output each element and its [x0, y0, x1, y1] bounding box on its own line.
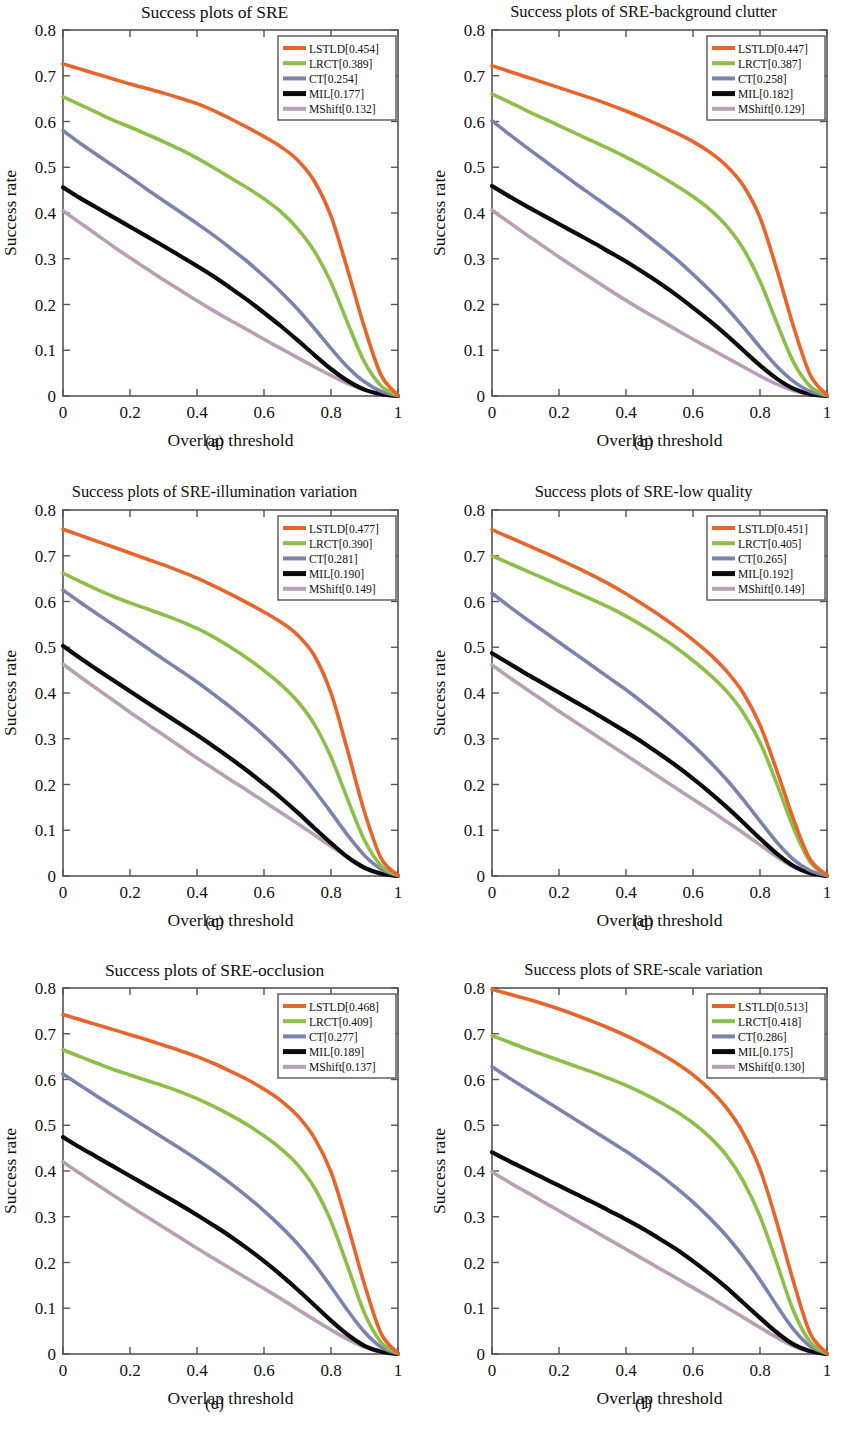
y-tick-label: 0.2 [35, 1254, 56, 1273]
legend-label-lrct: LRCT[0.409] [309, 1016, 372, 1029]
legend-label-lrct: LRCT[0.418] [738, 1016, 801, 1029]
y-tick-label: 0.1 [464, 341, 485, 360]
y-tick-label: 0.8 [35, 501, 56, 520]
sub-caption-e: (e) [0, 1394, 429, 1414]
y-tick-label: 0 [477, 387, 486, 406]
x-tick-label: 1 [394, 403, 403, 422]
legend-label-lstld: LSTLD[0.454] [309, 43, 379, 56]
y-tick-label: 0.6 [464, 1071, 485, 1090]
legend-label-mshift: MShift[0.129] [738, 103, 805, 116]
x-tick-label: 0 [59, 883, 68, 902]
y-tick-label: 0.6 [35, 113, 56, 132]
x-tick-label: 0.2 [119, 1361, 140, 1380]
y-tick-label: 0.7 [464, 1025, 486, 1044]
x-tick-label: 0 [488, 403, 497, 422]
legend: LSTLD[0.454]LRCT[0.389]CT[0.254]MIL[0.17… [278, 36, 396, 120]
x-tick-label: 0.8 [320, 1361, 341, 1380]
y-tick-label: 0.4 [35, 684, 57, 703]
x-tick-label: 0.2 [548, 883, 569, 902]
legend-label-mil: MIL[0.192] [738, 568, 793, 581]
legend: LSTLD[0.477]LRCT[0.390]CT[0.281]MIL[0.19… [278, 516, 396, 600]
legend: LSTLD[0.468]LRCT[0.409]CT[0.277]MIL[0.18… [278, 994, 396, 1078]
legend-label-lstld: LSTLD[0.451] [738, 523, 808, 536]
x-tick-label: 1 [394, 883, 403, 902]
y-tick-label: 0.2 [464, 296, 485, 315]
plot-panel-b: Success plots of SRE-background clutter0… [429, 0, 858, 480]
y-tick-label: 0.5 [35, 638, 56, 657]
y-tick-label: 0.3 [464, 1208, 485, 1227]
legend-label-ct: CT[0.254] [309, 73, 358, 86]
y-axis-label: Success rate [0, 1128, 20, 1214]
x-tick-label: 1 [823, 403, 832, 422]
y-tick-label: 0.7 [464, 67, 486, 86]
x-tick-label: 0.6 [682, 1361, 703, 1380]
x-tick-label: 0.2 [548, 1361, 569, 1380]
legend: LSTLD[0.451]LRCT[0.405]CT[0.265]MIL[0.19… [707, 516, 825, 600]
plot-canvas-d: 00.20.40.60.8100.10.20.30.40.50.60.70.8O… [429, 480, 858, 944]
plot-canvas-e: 00.20.40.60.8100.10.20.30.40.50.60.70.8O… [0, 958, 429, 1422]
legend-label-mil: MIL[0.189] [309, 1046, 364, 1059]
plot-panel-f: Success plots of SRE-scale variation00.2… [429, 958, 858, 1446]
y-tick-label: 0.2 [35, 776, 56, 795]
legend-label-lrct: LRCT[0.390] [309, 538, 372, 551]
y-tick-label: 0.3 [35, 1208, 56, 1227]
x-tick-label: 0.6 [682, 403, 703, 422]
x-tick-label: 0.4 [615, 1361, 637, 1380]
y-tick-label: 0.7 [35, 67, 57, 86]
sub-caption-c: (c) [0, 912, 429, 932]
x-tick-label: 0.8 [320, 883, 341, 902]
x-tick-label: 0.6 [253, 883, 274, 902]
figure-grid: Success plots of SRE00.20.40.60.8100.10.… [0, 0, 858, 1446]
y-tick-label: 0.7 [35, 547, 57, 566]
y-tick-label: 0.8 [464, 501, 485, 520]
legend-label-lstld: LSTLD[0.513] [738, 1001, 808, 1014]
x-tick-label: 1 [823, 1361, 832, 1380]
legend-label-mil: MIL[0.182] [738, 88, 793, 101]
plot-canvas-a: 00.20.40.60.8100.10.20.30.40.50.60.70.8O… [0, 0, 429, 464]
legend-label-mil: MIL[0.175] [738, 1046, 793, 1059]
legend-label-lstld: LSTLD[0.447] [738, 43, 808, 56]
legend-label-lrct: LRCT[0.389] [309, 58, 372, 71]
legend: LSTLD[0.447]LRCT[0.387]CT[0.258]MIL[0.18… [707, 36, 825, 120]
y-tick-label: 0.1 [35, 821, 56, 840]
y-axis-label: Success rate [0, 650, 20, 736]
y-tick-label: 0.3 [35, 730, 56, 749]
plot-panel-a: Success plots of SRE00.20.40.60.8100.10.… [0, 0, 429, 480]
y-tick-label: 0.1 [464, 821, 485, 840]
sub-caption-d: (d) [429, 912, 858, 932]
x-tick-label: 0.8 [320, 403, 341, 422]
x-tick-label: 1 [394, 1361, 403, 1380]
y-axis-label: Success rate [0, 170, 20, 256]
x-tick-label: 0.4 [615, 403, 637, 422]
x-tick-label: 0 [488, 1361, 497, 1380]
y-tick-label: 0 [477, 867, 486, 886]
y-axis-label: Success rate [429, 1128, 449, 1214]
y-tick-label: 0.5 [35, 1116, 56, 1135]
y-axis-label: Success rate [429, 650, 449, 736]
legend-label-lstld: LSTLD[0.477] [309, 523, 379, 536]
legend-label-mshift: MShift[0.137] [309, 1061, 376, 1074]
x-tick-label: 0.2 [119, 403, 140, 422]
y-tick-label: 0.6 [464, 593, 485, 612]
y-tick-label: 0.2 [35, 296, 56, 315]
y-tick-label: 0.3 [464, 730, 485, 749]
y-tick-label: 0.1 [35, 341, 56, 360]
sub-caption-a: (a) [0, 432, 429, 452]
y-tick-label: 0.5 [464, 158, 485, 177]
legend-label-ct: CT[0.286] [738, 1031, 787, 1044]
y-tick-label: 0.6 [35, 1071, 56, 1090]
y-tick-label: 0.4 [464, 204, 486, 223]
legend-label-lstld: LSTLD[0.468] [309, 1001, 379, 1014]
plot-canvas-c: 00.20.40.60.8100.10.20.30.40.50.60.70.8O… [0, 480, 429, 944]
y-tick-label: 0 [48, 1345, 57, 1364]
plot-panel-e: Success plots of SRE-occlusion00.20.40.6… [0, 958, 429, 1446]
x-tick-label: 0 [488, 883, 497, 902]
y-tick-label: 0.3 [35, 250, 56, 269]
legend-label-ct: CT[0.281] [309, 553, 358, 566]
x-tick-label: 0.8 [749, 1361, 770, 1380]
legend-label-ct: CT[0.258] [738, 73, 787, 86]
y-tick-label: 0.8 [35, 21, 56, 40]
y-tick-label: 0.3 [464, 250, 485, 269]
x-tick-label: 0.2 [548, 403, 569, 422]
y-tick-label: 0.4 [464, 684, 486, 703]
